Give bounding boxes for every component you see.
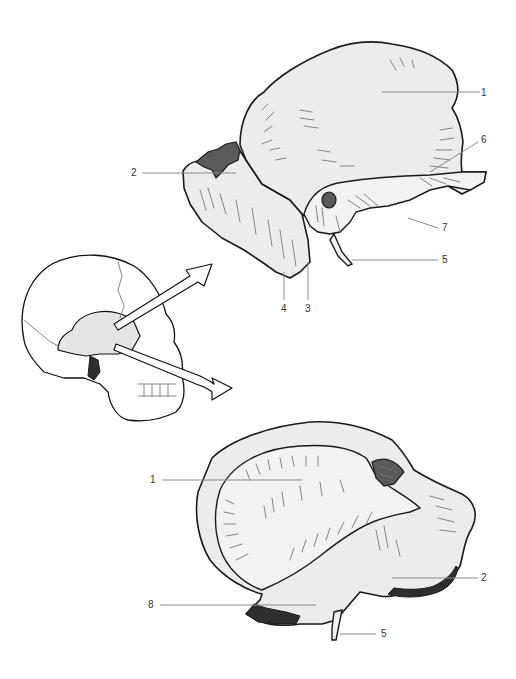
- temporal-bone-diagram: [0, 0, 516, 679]
- label-lateral-5: 5: [442, 255, 448, 265]
- label-lateral-4: 4: [281, 304, 287, 314]
- skull-orientation-illustration: [22, 255, 232, 421]
- styloid-process: [330, 234, 352, 266]
- label-medial-1: 1: [150, 475, 156, 485]
- label-lateral-6: 6: [481, 135, 487, 145]
- label-medial-5: 5: [381, 629, 387, 639]
- label-lateral-2: 2: [131, 168, 137, 178]
- external-acoustic-meatus: [322, 192, 336, 208]
- label-lateral-3: 3: [305, 304, 311, 314]
- leader-line-7: [408, 218, 438, 228]
- label-lateral-1: 1: [481, 88, 487, 98]
- label-medial-2: 2: [481, 573, 487, 583]
- lateral-view-illustration: [142, 42, 486, 300]
- label-medial-8: 8: [148, 600, 154, 610]
- styloid-process-medial: [332, 610, 342, 640]
- label-lateral-7: 7: [442, 223, 448, 233]
- medial-view-illustration: [160, 422, 478, 640]
